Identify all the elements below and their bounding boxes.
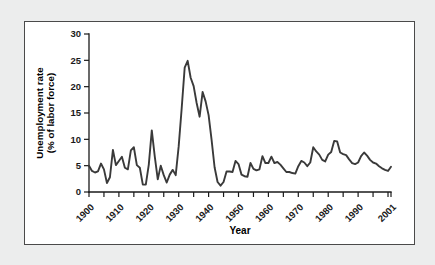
y-tick-label: 20 [70, 81, 81, 92]
y-tick-label: 0 [76, 186, 81, 197]
plot-area: 051015202530 190019101920193019401950196… [25, 22, 414, 244]
x-tick-label: 1930 [163, 201, 186, 224]
y-axis-title-line1: Unemployment rate [34, 67, 45, 159]
series-line-unemployment-rate [89, 61, 391, 186]
x-tick-label: 1970 [283, 201, 306, 224]
unemployment-rate-line-chart: 051015202530 190019101920193019401950196… [25, 22, 416, 246]
x-tick-label: 1920 [133, 201, 156, 224]
y-tick-label: 30 [70, 28, 81, 39]
x-tick-label: 1960 [253, 201, 276, 224]
y-axis-title-line2: (% of labor force) [45, 73, 56, 154]
x-tick-label: 1990 [342, 201, 365, 224]
x-tick-label: 1950 [223, 201, 246, 224]
x-tick-label: 1910 [103, 201, 126, 224]
y-tick-label: 25 [70, 55, 81, 66]
y-axis: 051015202530 [70, 28, 89, 197]
y-tick-label: 10 [70, 134, 81, 145]
data-series-group [89, 61, 391, 186]
figure-panel: 051015202530 190019101920193019401950196… [24, 21, 415, 245]
x-tick-label: 1900 [73, 201, 96, 224]
x-tick-label: 1940 [193, 201, 216, 224]
y-tick-label: 5 [76, 160, 82, 171]
y-tick-label: 15 [70, 107, 81, 118]
x-axis: 1900191019201930194019501960197019801990… [73, 192, 398, 224]
x-tick-label: 1980 [313, 201, 336, 224]
x-tick-label: 2001 [375, 201, 398, 224]
x-axis-title: Year [229, 225, 250, 236]
